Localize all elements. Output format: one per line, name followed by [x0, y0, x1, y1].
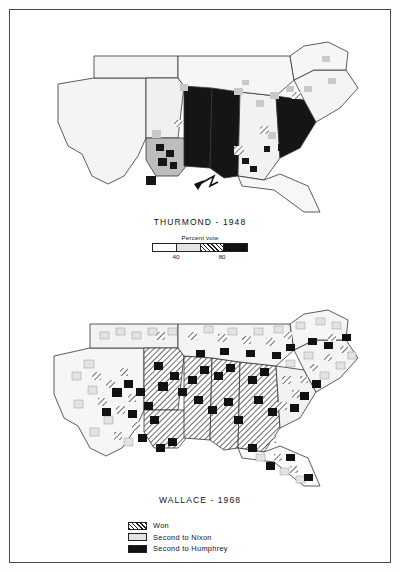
- scale-swatch-hatched: [201, 244, 225, 251]
- legend-key-hatched: [128, 522, 147, 530]
- figure-page: THURMOND - 1948 Percent vote 40 80: [0, 0, 400, 572]
- map-thurmond-1948-svg: [28, 26, 372, 216]
- legend-label-won: Won: [153, 521, 169, 530]
- legend-row-second-to-humphrey: Second to Humphrey: [128, 544, 228, 553]
- scale-title: Percent vote: [152, 234, 248, 241]
- legend-row-won: Won: [128, 521, 228, 530]
- scale-tick-labels: 40 80: [152, 253, 248, 262]
- map-thurmond-1948: [28, 26, 372, 216]
- scale-swatch-black: [224, 244, 247, 251]
- scale-swatch-white: [153, 244, 177, 251]
- scale-swatch-light-gray: [177, 244, 201, 251]
- scale-tick-40: 40: [173, 253, 180, 260]
- scale-bar: [152, 243, 248, 252]
- percent-vote-scale: Percent vote 40 80: [152, 234, 248, 262]
- wallace-legend: Won Second to Nixon Second to Humphrey: [128, 521, 228, 556]
- legend-key-black: [128, 545, 147, 553]
- map-wallace-1968: [28, 276, 372, 494]
- scale-tick-80: 80: [219, 253, 226, 260]
- legend-label-second-to-humphrey: Second to Humphrey: [153, 544, 228, 553]
- legend-row-second-to-nixon: Second to Nixon: [128, 533, 228, 542]
- caption-wallace-1968: WALLACE - 1968: [100, 495, 300, 505]
- map-wallace-1968-svg: [28, 276, 372, 494]
- legend-label-second-to-nixon: Second to Nixon: [153, 533, 212, 542]
- caption-thurmond-1948: THURMOND - 1948: [100, 217, 300, 227]
- legend-key-light-gray: [128, 533, 147, 541]
